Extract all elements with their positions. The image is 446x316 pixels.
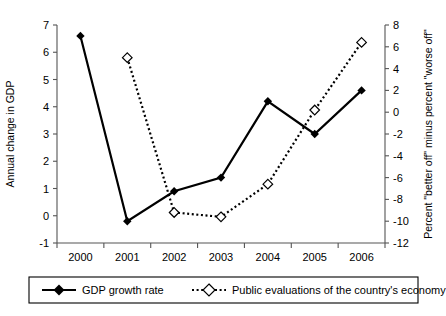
x-tick-label: 2002	[162, 251, 186, 263]
right-tick-label: -2	[393, 128, 403, 140]
data-point-open-diamond[interactable]	[310, 105, 320, 115]
left-axis-ticks: -101234567	[39, 19, 57, 249]
left-tick-label: 7	[43, 19, 49, 31]
right-tick-label: -10	[393, 215, 409, 227]
series-layer	[76, 32, 366, 226]
series-line-2	[127, 42, 361, 216]
chart-legend: GDP growth rate Public evaluations of th…	[29, 277, 446, 303]
x-tick-label: 2000	[68, 251, 92, 263]
right-axis-title: Percent "better off" minus percent "wors…	[422, 29, 434, 239]
x-tick-label: 2001	[115, 251, 139, 263]
series-1	[76, 32, 366, 226]
left-axis-title: Annual change in GDP	[4, 81, 16, 188]
data-point-open-diamond[interactable]	[357, 38, 367, 48]
x-axis-ticks: 2000200120022003200420052006	[57, 243, 385, 263]
right-tick-label: -12	[393, 237, 409, 249]
left-tick-label: 1	[43, 183, 49, 195]
legend-item-gdp-growth-rate[interactable]: GDP growth rate	[42, 284, 164, 296]
right-tick-label: -8	[393, 193, 403, 205]
data-point-open-diamond[interactable]	[263, 179, 273, 189]
legend-item-public-evaluations[interactable]: Public evaluations of the country's econ…	[192, 284, 446, 296]
right-tick-label: 4	[393, 63, 399, 75]
left-tick-label: 0	[43, 210, 49, 222]
data-point-open-diamond[interactable]	[122, 53, 132, 63]
chart-figure: -101234567 -12-10-8-6-4-202468 200020012…	[0, 0, 446, 316]
right-tick-label: 8	[393, 19, 399, 31]
x-tick-label: 2005	[302, 251, 326, 263]
x-tick-label: 2006	[349, 251, 373, 263]
data-point-filled-diamond[interactable]	[76, 32, 84, 40]
right-tick-label: 2	[393, 84, 399, 96]
line-chart: -101234567 -12-10-8-6-4-202468 200020012…	[0, 0, 446, 316]
open-diamond-icon	[203, 284, 215, 296]
data-point-open-diamond[interactable]	[169, 208, 179, 218]
left-tick-label: -1	[39, 237, 49, 249]
filled-diamond-icon	[54, 285, 65, 296]
left-tick-label: 4	[43, 101, 49, 113]
left-tick-label: 2	[43, 155, 49, 167]
x-tick-label: 2004	[256, 251, 280, 263]
legend-label-gdp-growth-rate: GDP growth rate	[82, 284, 164, 296]
legend-label-public-evaluations: Public evaluations of the country's econ…	[232, 284, 446, 296]
series-line-1	[80, 36, 361, 221]
x-tick-label: 2003	[209, 251, 233, 263]
right-tick-label: 6	[393, 41, 399, 53]
right-tick-label: -4	[393, 150, 403, 162]
left-tick-label: 6	[43, 46, 49, 58]
right-axis-ticks: -12-10-8-6-4-202468	[385, 19, 409, 249]
series-2	[122, 38, 366, 222]
right-tick-label: -6	[393, 172, 403, 184]
right-tick-label: 0	[393, 106, 399, 118]
left-tick-label: 3	[43, 128, 49, 140]
left-tick-label: 5	[43, 74, 49, 86]
